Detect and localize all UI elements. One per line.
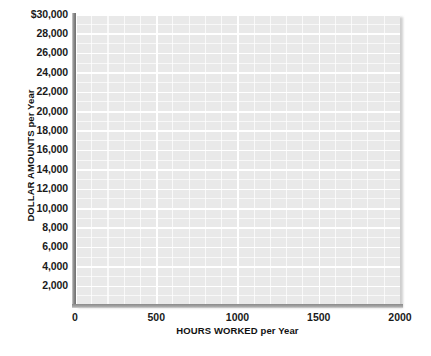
x-axis-tick-label: 1500	[307, 311, 330, 323]
y-axis-title-main: DOLLAR AMOUNTS	[25, 130, 36, 221]
y-axis-title: DOLLAR AMOUNTS per Year	[25, 6, 36, 306]
x-axis-title-unit: per Year	[261, 325, 299, 336]
x-axis-title-main: HOURS WORKED	[176, 325, 257, 336]
chart-container: $30,00028,00026,00024,00022,00020,00018,…	[0, 0, 431, 356]
x-axis-tick-labels: 0500100015002000	[0, 311, 431, 325]
x-axis-tick-label: 2000	[388, 311, 411, 323]
x-axis-tick-label: 500	[147, 311, 165, 323]
plot-area-grid	[75, 14, 400, 305]
x-axis-title: HOURS WORKED per Year	[75, 325, 400, 336]
x-axis-tick-label: 0	[72, 311, 78, 323]
y-axis-title-unit: per Year	[25, 89, 36, 127]
y-axis-line	[72, 13, 76, 306]
x-axis-line	[72, 304, 403, 308]
x-axis-tick-label: 1000	[226, 311, 249, 323]
